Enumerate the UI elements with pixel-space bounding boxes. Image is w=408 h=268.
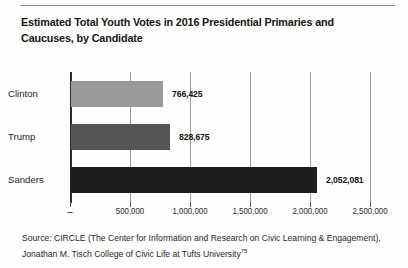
bar-chart: Clinton766,425Trump828,675Sanders2,052,0…: [0, 66, 408, 216]
gridline: [370, 72, 371, 202]
chart-title: Estimated Total Youth Votes in 2016 Pres…: [21, 14, 374, 46]
category-label-clinton: Clinton: [8, 88, 38, 99]
top-divider-rule: [20, 5, 395, 6]
x-axis-tick-label: 2,000,000: [292, 206, 327, 216]
category-label-trump: Trump: [8, 131, 35, 142]
bar-clinton: [71, 81, 163, 107]
x-axis-tick-label: –: [67, 206, 72, 217]
x-axis-tick-label: 2,500,000: [352, 206, 387, 216]
category-label-sanders: Sanders: [8, 174, 44, 185]
source-footnote-marker: 75: [241, 248, 248, 254]
x-axis-tick-label: 1,500,000: [232, 206, 267, 216]
source-text: Source: CIRCLE (The Center for Informati…: [22, 233, 381, 259]
value-label-sanders: 2,052,081: [326, 174, 364, 185]
bar-trump: [71, 124, 170, 150]
source-note: Source: CIRCLE (The Center for Informati…: [22, 232, 394, 262]
value-label-clinton: 766,425: [172, 88, 203, 99]
value-label-trump: 828,675: [179, 131, 210, 142]
bar-sanders: [71, 167, 317, 193]
x-axis-tick-label: 1,000,000: [172, 206, 207, 216]
x-axis-tick-label: 500,000: [116, 206, 145, 216]
figure-container: Estimated Total Youth Votes in 2016 Pres…: [0, 0, 408, 268]
